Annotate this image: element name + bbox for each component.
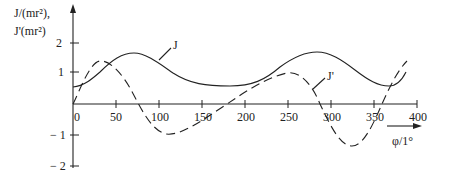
series-j-curve: [73, 52, 406, 87]
series-j-leader: [159, 48, 171, 60]
y-tick-label-minus-1: − 1: [50, 128, 66, 142]
chart: 2 1 − 1 − 2 0 50 100 150 200 250 300 350…: [0, 0, 449, 178]
y-tick-label-2: 2: [56, 36, 62, 50]
x-axis-label: φ/1°: [392, 134, 413, 148]
series-jp-label: J': [327, 69, 334, 83]
y-tick-label-minus-2: − 2: [50, 159, 66, 173]
x-tick-label-200: 200: [237, 110, 255, 124]
x-tick-label-400: 400: [409, 110, 427, 124]
series-jp-leader: [313, 78, 325, 89]
x-tick-label-0: 0: [74, 110, 80, 124]
x-tick-label-150: 150: [194, 110, 212, 124]
x-tick-label-250: 250: [280, 110, 298, 124]
y-axis-arrow-icon: [70, 4, 76, 13]
x-tick-label-50: 50: [110, 110, 122, 124]
x-tick-label-100: 100: [151, 110, 169, 124]
y-axis-label-line2: J'(mr²): [14, 24, 46, 38]
x-tick-label-350: 350: [366, 110, 384, 124]
y-tick-label-1: 1: [58, 65, 64, 79]
y-axis-label-line1: J/(mr²),: [14, 6, 50, 20]
series-j-label: J: [173, 38, 178, 52]
